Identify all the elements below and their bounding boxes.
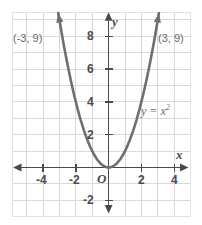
x-tick-label-4: 4	[171, 174, 178, 186]
point-label-right: (3, 9)	[158, 33, 184, 44]
equation-label: y = x2	[141, 104, 170, 117]
equation-base: y = x	[141, 104, 166, 118]
origin-label: O	[97, 172, 106, 185]
x-axis-name: x	[176, 148, 183, 161]
equation-exponent: 2	[166, 103, 170, 112]
x-tick-label-minus-4: -4	[36, 174, 47, 186]
x-tick-label-2: 2	[138, 174, 145, 186]
y-tick-label-2: 2	[87, 129, 94, 141]
y-tick-label-6: 6	[87, 63, 94, 75]
y-tick-label-8: 8	[87, 30, 94, 42]
parabola-graph-figure: 8 6 4 2 -2 -4 -2 2 4 O y x (-3, 9) (3, 9…	[0, 0, 202, 225]
y-tick-label-4: 4	[87, 96, 94, 108]
y-tick-label-minus-2: -2	[83, 194, 94, 206]
x-tick-label-minus-2: -2	[69, 174, 80, 186]
point-label-left: (-3, 9)	[13, 33, 42, 44]
y-axis-name: y	[112, 15, 118, 28]
